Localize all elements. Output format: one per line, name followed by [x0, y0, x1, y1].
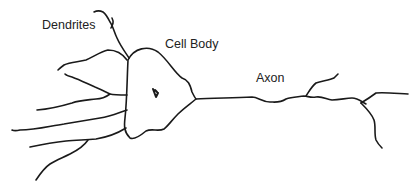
- neuron-diagram: Dendrites Cell Body Axon: [0, 0, 418, 189]
- axon-label: Axon: [256, 71, 285, 85]
- axon: [196, 96, 366, 104]
- dendrites-label: Dendrites: [42, 18, 96, 32]
- dendrite-lower: [12, 110, 127, 131]
- nucleus-mark: [153, 89, 158, 97]
- axon-terminal-branch-3: [361, 103, 382, 148]
- dendrite-middle-lower: [37, 94, 110, 110]
- dendrite-middle-fork: [65, 74, 127, 95]
- dendrite-bottom-branch: [36, 140, 88, 180]
- cell-body-label: Cell Body: [165, 37, 219, 51]
- dendrite-bottom: [30, 128, 126, 147]
- axon-terminal-branch-1: [306, 74, 338, 96]
- axon-terminal-branch-2: [361, 93, 408, 103]
- dendrite-upper: [58, 50, 127, 70]
- cell-body-outline: [125, 48, 196, 138]
